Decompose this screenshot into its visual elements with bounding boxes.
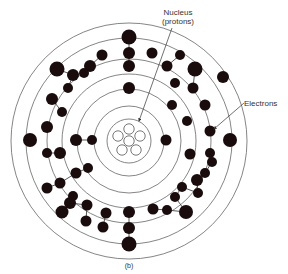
electron-dot (83, 163, 93, 173)
electron-dot (177, 182, 187, 192)
electron-dot (82, 200, 93, 211)
electron-dot (170, 78, 180, 88)
electron-dot (50, 62, 65, 77)
electron-dot (188, 62, 203, 77)
electron-dot (161, 135, 172, 146)
atom-diagram (0, 0, 288, 274)
electron-dot (147, 48, 158, 59)
electron-dot (200, 100, 211, 111)
figure-caption: (b) (118, 261, 140, 270)
electron-dot (170, 192, 180, 202)
electron-dot (97, 50, 108, 61)
electron-dot (57, 107, 67, 117)
electron-dot (123, 60, 135, 72)
electron-dot (67, 69, 79, 81)
electron-dot (122, 30, 137, 45)
electron-dot (175, 50, 185, 60)
electron-dot (123, 82, 135, 94)
electron-dot (54, 147, 66, 159)
nucleus-label-line2: (protons) (152, 17, 204, 26)
electron-dot (87, 135, 97, 145)
electron-dot (55, 178, 66, 189)
electron-dot (179, 205, 193, 219)
proton-icon (124, 136, 134, 146)
electron-dot (63, 83, 73, 93)
electron-dot (98, 222, 109, 233)
electron-dot (205, 148, 215, 158)
electron-dot (207, 157, 217, 167)
electron-dot (122, 237, 137, 252)
proton-icon (117, 145, 127, 155)
nucleus-label: Nucleus (protons) (152, 8, 204, 26)
electron-dot (167, 100, 177, 110)
electron-dot (193, 188, 203, 198)
electron-dot (68, 191, 78, 201)
electron-dot (71, 168, 82, 179)
proton-icon (113, 131, 123, 141)
electron-dot (223, 133, 237, 147)
proton-icon (135, 131, 145, 141)
pointer-arrow (139, 28, 172, 121)
electron-dot (191, 174, 203, 186)
electron-dot (46, 93, 58, 105)
electron-dot (23, 133, 37, 147)
electron-dot (162, 205, 172, 215)
electron-dot (123, 206, 135, 218)
nucleus-label-line1: Nucleus (152, 8, 204, 17)
electron-dot (123, 222, 135, 234)
electron-dot (42, 183, 53, 194)
proton-icon (131, 145, 141, 155)
electron-dot (162, 61, 173, 72)
electron-dot (41, 121, 53, 133)
electron-dot (205, 126, 216, 137)
electron-dot (123, 47, 135, 59)
nucleus (107, 119, 151, 163)
electron-dot (101, 208, 112, 219)
electron-dot (185, 149, 196, 160)
electrons-label: Electrons (244, 99, 277, 108)
pointer-arrow (214, 103, 244, 129)
electron-dot (148, 204, 159, 215)
proton-icon (124, 124, 134, 134)
electron-dot (70, 134, 82, 146)
electron-dot (81, 216, 92, 227)
electron-dot (42, 148, 52, 158)
electron-dot (188, 83, 199, 94)
electron-dot (182, 116, 192, 126)
electron-dot (217, 71, 229, 83)
electron-dot (79, 68, 89, 78)
